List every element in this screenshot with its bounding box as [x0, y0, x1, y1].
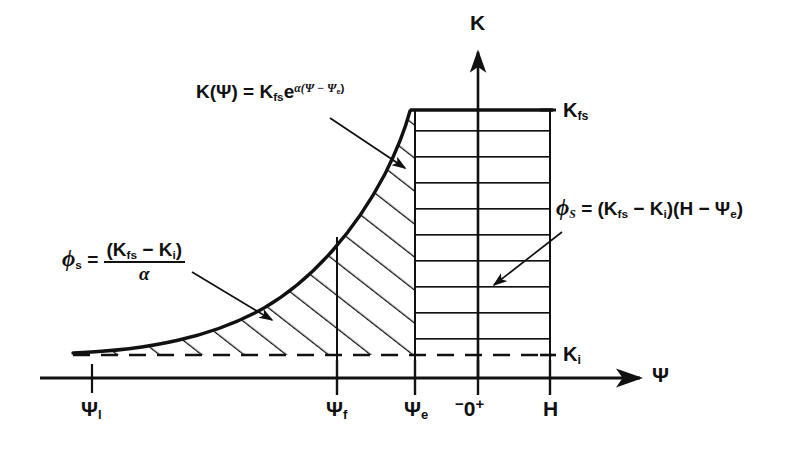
rect-minus: − K	[633, 198, 663, 219]
num-minus: − K	[142, 239, 172, 260]
phi-s-equals: =	[87, 249, 98, 270]
num-sub1: fs	[127, 248, 137, 261]
kfs-base: K	[563, 99, 577, 121]
psi-f-sub: f	[343, 407, 347, 422]
x-tick-label-origin: −0+	[455, 398, 484, 419]
diagram-svg	[0, 0, 795, 452]
curve-eq-exponent: α(Ψ − Ψ	[294, 82, 336, 95]
figure-canvas: K Ψ Ψl Ψf Ψe −0+ H Kfs Ki K(Ψ) = Kfseα(Ψ…	[0, 0, 795, 452]
psi-e-sub: e	[421, 407, 428, 422]
phi-s-fraction-label: ϕs = (Kfs − Ki) α	[62, 240, 185, 283]
phi-s-subscript: s	[75, 258, 82, 271]
rect-close: )	[737, 198, 743, 219]
num-open: (K	[107, 239, 127, 260]
curve-eq-exponent-close: )	[341, 81, 345, 94]
k-axis-label: K	[470, 12, 485, 33]
phi-s-symbol: ϕ	[62, 246, 75, 271]
curve-eq-arg: (Ψ)	[210, 81, 238, 102]
ki-sub: i	[577, 353, 580, 367]
phi-s-rect-label: ϕS = (Kfs − Ki)(H − Ψe)	[556, 196, 743, 221]
curve-equation-label: K(Ψ) = Kfseα(Ψ − Ψe)	[196, 82, 344, 103]
ki-level-label: Ki	[563, 344, 581, 367]
rectangle-hatch-region	[415, 111, 550, 355]
phi-s-denominator: α	[104, 261, 186, 283]
curve-hatch-region	[60, 100, 430, 370]
rect-sub1: fs	[618, 207, 628, 220]
kfs-sub: fs	[577, 109, 588, 123]
num-close: )	[176, 239, 182, 260]
x-tick-label-psi-l: Ψl	[81, 398, 102, 421]
curve-eq-rhs-k: K	[259, 81, 273, 102]
phi-rect-symbol: ϕ	[556, 195, 569, 220]
origin-minus-sign: −	[455, 395, 464, 412]
origin-plus-sign: +	[475, 395, 484, 412]
x-tick-label-h: H	[543, 398, 558, 419]
psi-l-base: Ψ	[81, 397, 98, 420]
phi-s-leader	[192, 272, 272, 320]
curve-eq-k: K	[196, 81, 210, 102]
phi-s-fraction: (Kfs − Ki) α	[104, 240, 186, 283]
kfs-level-label: Kfs	[563, 100, 588, 123]
ki-base: K	[563, 343, 577, 365]
psi-e-base: Ψ	[404, 397, 421, 420]
origin-zero: 0	[464, 397, 476, 420]
curve-eq-e: e	[284, 81, 295, 102]
psi-axis-label: Ψ	[652, 364, 669, 385]
x-tick-label-psi-e: Ψe	[404, 398, 428, 421]
phi-s-numerator: (Kfs − Ki)	[104, 240, 186, 261]
curve-equation-leader	[330, 118, 405, 168]
psi-f-base: Ψ	[326, 397, 343, 420]
curve-eq-rhs-sub: fs	[273, 90, 283, 103]
psi-l-sub: l	[98, 407, 102, 422]
x-tick-label-psi-f: Ψf	[326, 398, 347, 421]
rect-open: (K	[598, 198, 618, 219]
rect-mid: )(H − Ψ	[667, 198, 730, 219]
curve-eq-equals: =	[243, 81, 254, 102]
phi-rect-equals: =	[581, 198, 592, 219]
phi-rect-subscript: S	[569, 208, 576, 221]
